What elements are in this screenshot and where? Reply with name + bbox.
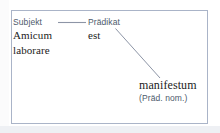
diagram-frame [11,10,208,124]
predicate-word-est: est [88,30,101,41]
diagram-screenshot: Subjekt Amicum laborare Prädikat est man… [0,0,220,133]
outer-margin-left [0,0,9,133]
predicative-case-note: (Präd. nom.) [139,94,187,103]
predicative-word-manifestum: manifestum [139,79,197,91]
role-label-subject: Subjekt [13,18,42,27]
subject-word-amicum: Amicum [13,30,52,41]
subject-word-laborare: laborare [13,45,50,56]
outer-margin-bottom [0,126,220,133]
role-label-predicate: Prädikat [88,18,120,27]
